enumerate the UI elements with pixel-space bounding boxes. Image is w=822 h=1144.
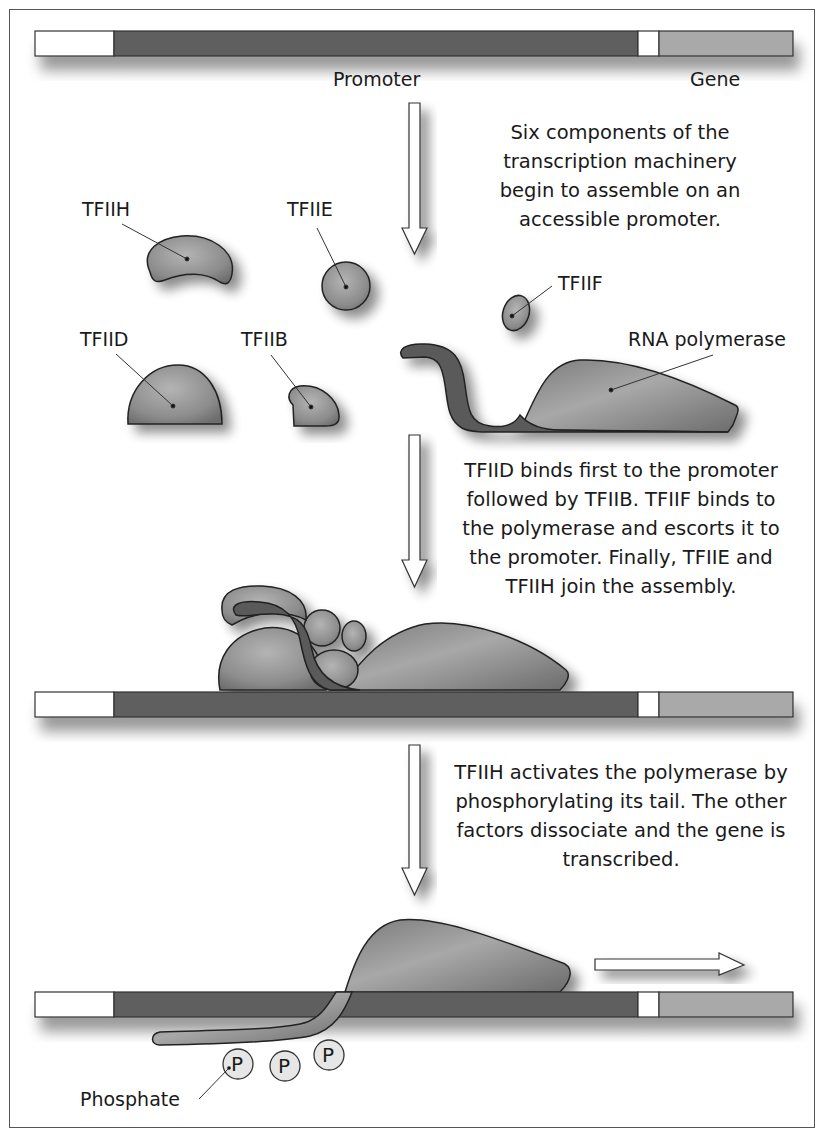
dna-strand-middle — [35, 692, 793, 717]
phosphate-symbol: P — [278, 1056, 290, 1076]
caption-step-1: Six components of the transcription mach… — [480, 118, 760, 234]
dna-strand-top — [35, 31, 793, 56]
phosphate-leader-line — [199, 1068, 229, 1099]
right-arrow-icon — [595, 953, 744, 975]
preinitiation-complex — [219, 586, 569, 690]
phosphate-symbol: P — [322, 1045, 334, 1065]
gene-label: Gene — [690, 70, 740, 89]
promoter-label: Promoter — [333, 70, 420, 89]
rna-polymerase-shape — [401, 344, 738, 432]
tfiih-label: TFIIH — [82, 200, 130, 219]
down-arrow-icon — [402, 103, 427, 254]
tfiie-label: TFIIE — [287, 200, 333, 219]
tfiih-shape — [147, 236, 232, 284]
active-polymerase — [345, 920, 570, 992]
tfiid-label: TFIID — [80, 330, 128, 349]
dna-strand-bottom — [35, 992, 793, 1017]
tfiib-label: TFIIB — [241, 330, 288, 349]
tfiib-shape — [289, 386, 339, 426]
tfiif-label: TFIIF — [558, 274, 603, 293]
phosphate-symbol: P — [231, 1054, 243, 1074]
rna-polymerase-label: RNA polymerase — [628, 330, 786, 349]
down-arrow-icon — [402, 745, 427, 895]
caption-step-2: TFIID binds first to the promoter follow… — [440, 456, 802, 601]
down-arrow-icon — [402, 435, 427, 587]
caption-step-3: TFIIH activates the polymerase by phosph… — [440, 758, 802, 874]
tfiid-shape — [128, 365, 222, 424]
phosphate-label: Phosphate — [80, 1090, 180, 1109]
